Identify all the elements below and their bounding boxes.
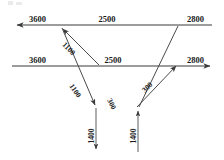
label-vertical-right: 1400 xyxy=(129,128,138,143)
label-top-left: 3600 xyxy=(29,14,46,24)
label-mid-left: 3600 xyxy=(29,55,46,65)
label-vertical-left: 1400 xyxy=(87,128,96,143)
label-diagonal-upper-left: 1100 xyxy=(61,40,78,57)
scan-artifact-2 xyxy=(16,2,22,5)
scan-artifact-1 xyxy=(8,1,13,5)
label-diagonal-right: 300 xyxy=(140,80,155,95)
label-diagonal-center: 300 xyxy=(105,97,118,111)
label-top-center: 2500 xyxy=(99,14,116,24)
label-top-right: 2800 xyxy=(187,14,204,24)
vector-diagram: 3600 2500 2800 3600 2500 2800 1100 1100 … xyxy=(0,0,224,160)
label-diagonal-lower-left: 1100 xyxy=(67,82,83,99)
label-mid-right: 2800 xyxy=(187,55,204,65)
label-mid-center: 2500 xyxy=(105,55,122,65)
diagram-canvas: 3600 2500 2800 3600 2500 2800 1100 1100 … xyxy=(0,0,224,160)
